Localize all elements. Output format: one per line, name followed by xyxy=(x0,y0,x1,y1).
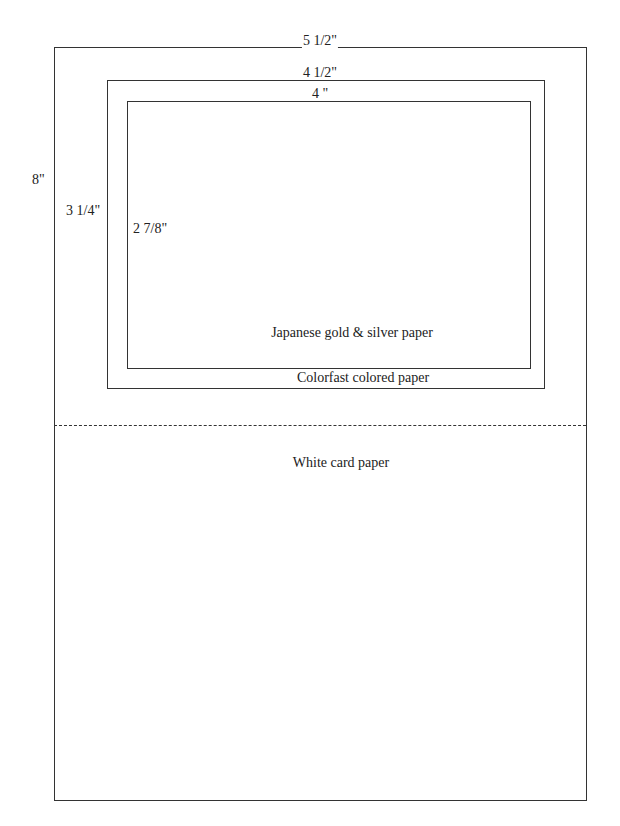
inner-height-label: 2 7/8" xyxy=(133,222,167,236)
middle-material-label: Colorfast colored paper xyxy=(296,371,430,385)
middle-width-label: 4 1/2" xyxy=(302,66,338,80)
inner-material-label: Japanese gold & silver paper xyxy=(270,326,434,340)
fold-line xyxy=(54,425,586,426)
middle-height-label: 3 1/4" xyxy=(66,204,100,218)
card-height-label: 8" xyxy=(32,173,45,187)
inner-width-label: 4 " xyxy=(311,87,329,101)
card-width-label: 5 1/2" xyxy=(302,34,338,48)
card-material-label: White card paper xyxy=(292,456,390,470)
